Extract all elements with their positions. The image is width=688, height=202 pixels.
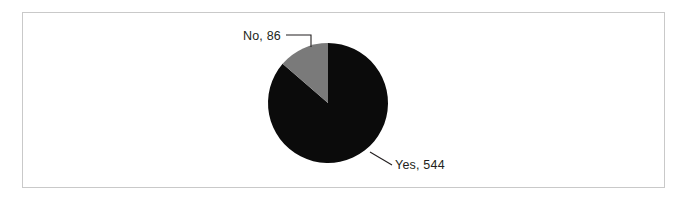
pie-label-no: No, 86	[243, 29, 281, 43]
leader-line-no	[286, 35, 311, 47]
leader-line-yes	[370, 152, 392, 165]
pie-label-yes: Yes, 544	[395, 158, 445, 172]
pie-chart-plot: No, 86 Yes, 544	[0, 0, 688, 202]
pie-chart-figure: No, 86 Yes, 544	[0, 0, 688, 202]
